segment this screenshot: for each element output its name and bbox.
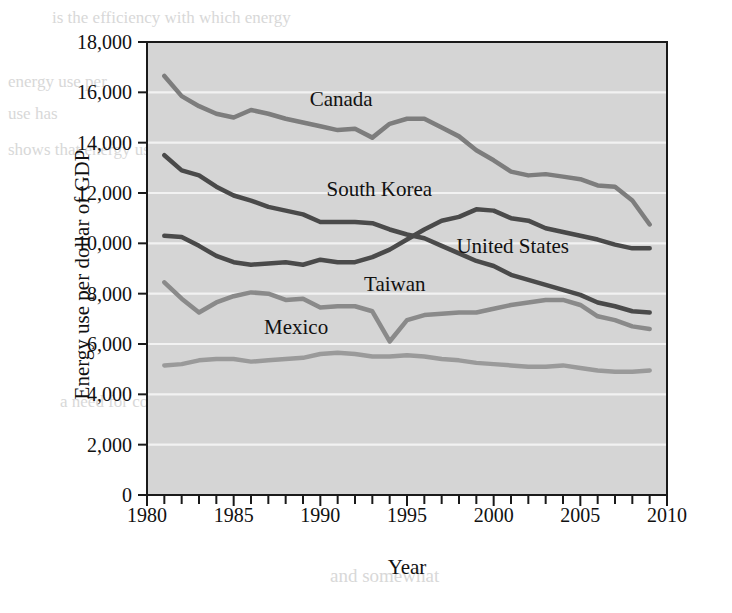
series-label-canada: Canada [310,87,374,111]
figure-energy-use-per-dollar-gdp: CanadaSouth KoreaUnited StatesTaiwanMexi… [0,0,732,613]
x-axis-tick-label: 1980 [127,504,167,527]
series-label-taiwan: Taiwan [364,272,426,296]
series-label-south-korea: South Korea [326,177,432,201]
y-axis-title: Energy use per dollar of GDP [70,65,95,485]
x-axis-tick-label: 1985 [214,504,254,527]
y-axis-tick-label: 18,000 [77,31,132,54]
x-axis-tick-label: 2005 [560,504,600,527]
series-label-mexico: Mexico [264,315,328,339]
x-axis-tick-label: 2000 [474,504,514,527]
y-axis-tick-labels: 02,0004,0006,0008,00010,00012,00014,0001… [0,0,132,613]
x-axis-tick-label: 1995 [387,504,427,527]
series-label-united-states: United States [456,234,569,258]
x-axis-tick-label: 2010 [647,504,687,527]
plot-background [147,42,667,495]
x-axis-title: Year [147,555,667,580]
x-axis-tick-label: 1990 [300,504,340,527]
